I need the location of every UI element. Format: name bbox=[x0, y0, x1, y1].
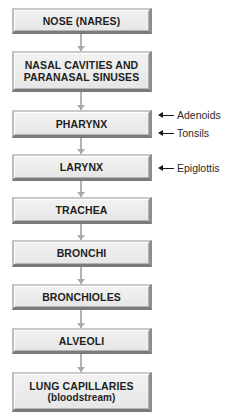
node-nasal-cavities: NASAL CAVITIES AND PARANASAL SINUSES bbox=[12, 51, 152, 92]
connector-alveoli-capillaries bbox=[80, 354, 82, 372]
node-label: LUNG CAPILLARIES bbox=[29, 380, 133, 392]
annotation-tonsils: Tonsils bbox=[158, 127, 209, 139]
arrow-left-icon bbox=[158, 127, 174, 139]
connector-bronchioles-alveoli bbox=[80, 310, 82, 328]
annotation-label: Epiglottis bbox=[177, 162, 220, 174]
connector-pharynx-larynx bbox=[80, 138, 82, 154]
node-label-line-1: NASAL CAVITIES AND bbox=[24, 59, 140, 71]
node-lung-capillaries: LUNG CAPILLARIES (bloodstream) bbox=[12, 372, 152, 412]
node-label: NOSE (NARES) bbox=[43, 15, 121, 27]
node-pharynx: PHARYNX bbox=[12, 110, 152, 138]
arrow-left-icon bbox=[158, 162, 174, 174]
connector-larynx-trachea bbox=[80, 181, 82, 197]
annotation-epiglottis: Epiglottis bbox=[158, 162, 220, 174]
node-bronchi: BRONCHI bbox=[12, 240, 152, 267]
connector-trachea-bronchi bbox=[80, 224, 82, 240]
node-label: ALVEOLI bbox=[59, 335, 104, 347]
node-nose: NOSE (NARES) bbox=[12, 8, 152, 34]
node-label: LARYNX bbox=[60, 161, 103, 173]
annotation-label: Tonsils bbox=[177, 127, 209, 139]
connector-bronchi-bronchioles bbox=[80, 267, 82, 284]
node-trachea: TRACHEA bbox=[12, 197, 152, 224]
arrow-left-icon bbox=[158, 109, 174, 121]
annotation-label: Adenoids bbox=[177, 109, 221, 121]
annotation-adenoids: Adenoids bbox=[158, 109, 221, 121]
connector-nasal-pharynx bbox=[80, 92, 82, 110]
node-alveoli: ALVEOLI bbox=[12, 328, 152, 354]
node-label: TRACHEA bbox=[55, 204, 107, 216]
node-sublabel: (bloodstream) bbox=[29, 392, 133, 404]
node-label-line-2: PARANASAL SINUSES bbox=[24, 71, 140, 83]
node-label: PHARYNX bbox=[56, 118, 108, 130]
node-label: BRONCHI bbox=[57, 247, 107, 259]
node-label: BRONCHIOLES bbox=[42, 291, 121, 303]
node-bronchioles: BRONCHIOLES bbox=[12, 284, 152, 310]
node-larynx: LARYNX bbox=[12, 154, 152, 181]
connector-nose-nasal bbox=[80, 34, 82, 51]
